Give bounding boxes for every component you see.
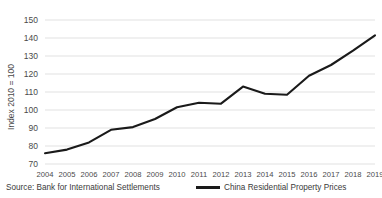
x-axis-tick-label: 2008 bbox=[125, 170, 142, 179]
x-axis-tick-label: 2015 bbox=[279, 170, 296, 179]
x-axis-tick-label: 2013 bbox=[235, 170, 252, 179]
x-axis-tick-label: 2007 bbox=[103, 170, 120, 179]
y-axis-tick-label: 70 bbox=[29, 159, 39, 169]
x-axis-tick-label: 2004 bbox=[37, 170, 54, 179]
x-axis-tick-label: 2014 bbox=[257, 170, 274, 179]
y-axis-tick-label: 100 bbox=[24, 105, 38, 115]
legend-entry-label: China Residential Property Prices bbox=[224, 183, 346, 192]
line-chart-plot: 708090100110120130140150 200420052006200… bbox=[0, 0, 382, 198]
y-axis-tick-label: 130 bbox=[24, 51, 38, 61]
x-axis-tick-label: 2006 bbox=[81, 170, 98, 179]
source-note: Source: Bank for International Settlemen… bbox=[6, 183, 160, 192]
y-axis-tick-label: 110 bbox=[24, 87, 38, 97]
x-axis-tick-label: 2018 bbox=[345, 170, 362, 179]
gridlines-group bbox=[45, 20, 375, 164]
y-axis-tick-label: 140 bbox=[24, 33, 38, 43]
y-axis-tick-label: 120 bbox=[24, 69, 38, 79]
chart-footer: Source: Bank for International Settlemen… bbox=[0, 181, 382, 198]
y-axis-tick-label: 150 bbox=[24, 15, 38, 25]
chart-legend: China Residential Property Prices bbox=[196, 183, 346, 192]
x-axis-tick-label: 2005 bbox=[59, 170, 76, 179]
x-axis-tick-label: 2010 bbox=[169, 170, 186, 179]
x-axis-tick-label: 2012 bbox=[213, 170, 230, 179]
legend-line-swatch bbox=[196, 186, 220, 189]
x-axis-tick-label: 2016 bbox=[301, 170, 318, 179]
x-axis-tick-label: 2017 bbox=[323, 170, 340, 179]
data-series-line bbox=[45, 35, 375, 153]
y-axis-tick-labels: 708090100110120130140150 bbox=[24, 15, 38, 169]
y-axis-tick-label: 80 bbox=[29, 141, 39, 151]
x-axis-tick-label: 2011 bbox=[191, 170, 207, 179]
chart-figure: 708090100110120130140150 200420052006200… bbox=[0, 0, 382, 198]
x-axis-tick-label: 2009 bbox=[147, 170, 164, 179]
x-axis-tick-label: 2019 bbox=[367, 170, 382, 179]
x-axis-tick-labels: 2004200520062007200820092010201120122013… bbox=[37, 170, 382, 179]
y-axis-title: Index 2010 = 100 bbox=[6, 64, 16, 130]
y-axis-tick-label: 90 bbox=[29, 123, 39, 133]
